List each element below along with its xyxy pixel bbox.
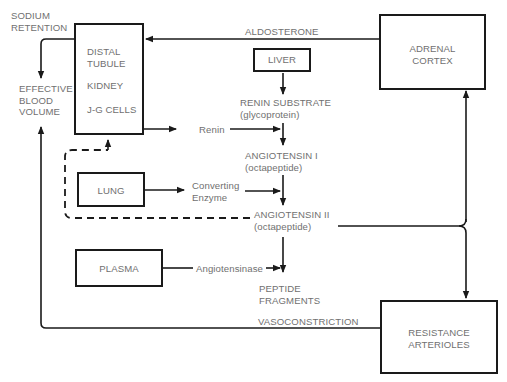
jg-cells-label: J-G CELLS: [87, 104, 136, 116]
angiotensinase-label: Angiotensinase: [196, 263, 263, 275]
liver-box: LIVER: [253, 48, 311, 72]
plasma-box: PLASMA: [75, 249, 163, 287]
aldosterone-label: ALDOSTERONE: [245, 26, 319, 38]
plasma-label: PLASMA: [77, 263, 161, 275]
kidney-label: KIDNEY: [87, 80, 123, 92]
renin-substrate-label: RENIN SUBSTRATE (glycoprotein): [240, 97, 331, 120]
to-arterioles-arrow: [459, 226, 466, 298]
adrenal-cortex-box: ADRENAL CORTEX: [379, 14, 486, 90]
resistance-arterioles-box: RESISTANCE ARTERIOLES: [380, 300, 498, 374]
effective-blood-volume-label: EFFECTIVE BLOOD VOLUME: [19, 83, 73, 118]
kidney-distal-tubule-text: DISTAL TUBULE: [87, 46, 125, 69]
renin-label: Renin: [199, 124, 225, 136]
vasoconstriction-label: VASOCONSTRICTION: [258, 316, 359, 328]
peptide-fragments-label: PEPTIDE FRAGMENTS: [259, 283, 320, 306]
sodium-retention-arrow: [41, 39, 74, 78]
lung-label: LUNG: [79, 185, 143, 197]
adrenal-cortex-text: ADRENAL CORTEX: [381, 43, 484, 66]
kidney-box: DISTAL TUBULE KIDNEY J-G CELLS: [74, 23, 144, 135]
liver-label: LIVER: [255, 54, 309, 66]
converting-enzyme-label: Converting Enzyme: [192, 180, 239, 203]
sodium-retention-label: SODIUM RETENTION: [11, 10, 67, 33]
angiotensin-ii-right-line: [338, 219, 466, 226]
angiotensin-i-label: ANGIOTENSIN I (octapeptide): [245, 150, 318, 173]
angiotensin-ii-label: ANGIOTENSIN II (octapeptide): [254, 209, 330, 232]
lung-box: LUNG: [77, 172, 145, 207]
resistance-arterioles-text: RESISTANCE ARTERIOLES: [382, 327, 496, 350]
